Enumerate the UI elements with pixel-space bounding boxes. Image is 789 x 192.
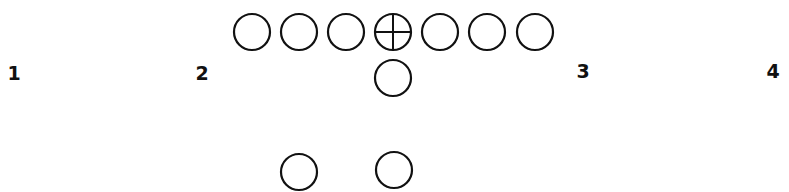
quarterback-player-icon [375,60,411,96]
back-player-icon [281,154,317,190]
hole-label-4: 4 [766,62,779,81]
hole-label-3: 3 [576,62,589,81]
formation-canvas [0,0,789,192]
center-player-icon [375,14,411,50]
formation-diagram: 1234 [0,0,789,192]
hole-label-1: 1 [7,64,20,83]
lineman-player-icon [422,14,458,50]
lineman-player-icon [469,14,505,50]
lineman-player-icon [234,14,270,50]
lineman-player-icon [281,14,317,50]
lineman-player-icon [517,14,553,50]
lineman-player-icon [328,14,364,50]
back-player-icon [376,152,412,188]
hole-label-2: 2 [195,64,208,83]
